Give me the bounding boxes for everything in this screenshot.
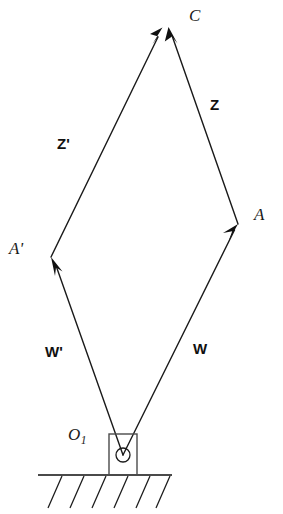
vector-w bbox=[123, 224, 238, 455]
vector-z bbox=[165, 27, 238, 224]
vector-label-z-prime: Z' bbox=[57, 136, 70, 151]
vector-wprime-arrowhead bbox=[51, 257, 63, 276]
vector-label-z: Z bbox=[210, 97, 219, 112]
hatch-line bbox=[48, 476, 62, 508]
vector-wprime-shaft bbox=[57, 267, 124, 455]
hatch-line bbox=[92, 476, 106, 508]
point-label-o1-base: O bbox=[68, 425, 80, 444]
vector-z-arrowhead bbox=[165, 27, 178, 44]
ground-hatching bbox=[48, 476, 170, 508]
point-label-a-prime: A' bbox=[9, 240, 23, 257]
linkage-diagram-figure: C A A' O1 Z Z' W W' bbox=[0, 0, 283, 514]
point-label-o1-subscript: 1 bbox=[80, 434, 86, 447]
hatch-line bbox=[114, 476, 128, 508]
vector-label-w: W bbox=[193, 341, 207, 356]
point-label-c: C bbox=[189, 7, 200, 24]
vector-label-w-prime: W' bbox=[45, 344, 63, 359]
hatch-line bbox=[136, 476, 150, 508]
vector-w-shaft bbox=[123, 230, 235, 455]
hatch-line bbox=[70, 476, 84, 508]
hatch-line bbox=[156, 476, 170, 508]
diagram-canvas bbox=[0, 0, 283, 514]
vector-z-shaft bbox=[173, 37, 239, 224]
point-label-a: A bbox=[254, 206, 264, 223]
point-label-o1: O1 bbox=[68, 426, 87, 447]
